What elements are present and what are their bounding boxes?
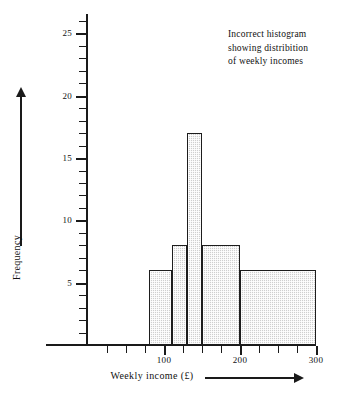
plot-area: 510152025 100200300 Frequency Weekly inc… [0,0,344,393]
annotation-line: showing distribition [228,42,308,56]
annotation-line: of weekly incomes [228,55,308,69]
y-axis-title: Frequency [11,218,22,298]
histogram-bar [202,245,240,345]
x-axis-title: Weekly income (£) [110,370,193,381]
x-axis-arrow-icon [205,377,295,379]
histogram-bar [187,133,202,345]
annotation-line: Incorrect histogram [228,28,308,42]
histogram-figure: 510152025 100200300 Frequency Weekly inc… [0,0,344,393]
chart-annotation: Incorrect histogramshowing distribitiono… [228,28,308,69]
histogram-bar [240,270,316,345]
histogram-bar [149,270,172,345]
histogram-bar [172,245,187,345]
